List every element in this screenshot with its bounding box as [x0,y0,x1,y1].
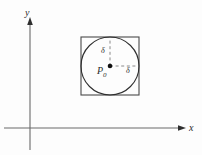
x-axis-label: x [189,123,193,133]
y-axis-arrowhead [27,17,33,25]
center-point-dot [108,64,113,69]
x-axis-group [4,125,186,131]
y-axis-label: y [25,8,29,18]
x-axis-arrowhead [178,125,186,131]
delta-vertical-label: δ [101,47,105,55]
delta-horizontal-label: δ [126,67,130,75]
y-axis-group [27,17,33,150]
center-point-label: P0 [97,66,107,79]
figure-canvas: y x δ δ P0 [0,0,202,155]
center-point-subscript: 0 [103,71,107,79]
